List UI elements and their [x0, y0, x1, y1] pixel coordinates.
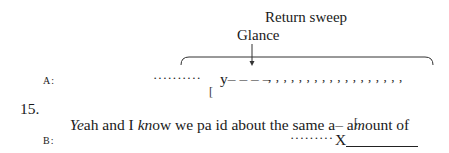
speaker-b-label: B: [43, 136, 54, 146]
overlap-bracket-b: [ [354, 117, 358, 129]
speaker-b-gaze-mark: X [335, 132, 346, 148]
overlap-bracket-a: [ [209, 86, 213, 98]
text-segment: ah and I [84, 116, 138, 133]
speaker-a-label: A: [43, 76, 55, 86]
speaker-b-gaze-dots: ········· [290, 131, 333, 144]
speaker-a-glance-mark: y– – – – [220, 71, 270, 87]
speaker-a-gaze-dots: ·········· [153, 71, 201, 84]
line-number: 15. [20, 101, 39, 117]
speaker-a-return-sweep-marks: , , , , , , , , , , , , , , , , , , [268, 70, 403, 83]
text-segment: ount of [365, 116, 409, 133]
emphasis-segment: kn [138, 116, 153, 133]
speaker-b-gaze-line [346, 146, 418, 147]
emphasis-segment: Ye [70, 116, 84, 133]
